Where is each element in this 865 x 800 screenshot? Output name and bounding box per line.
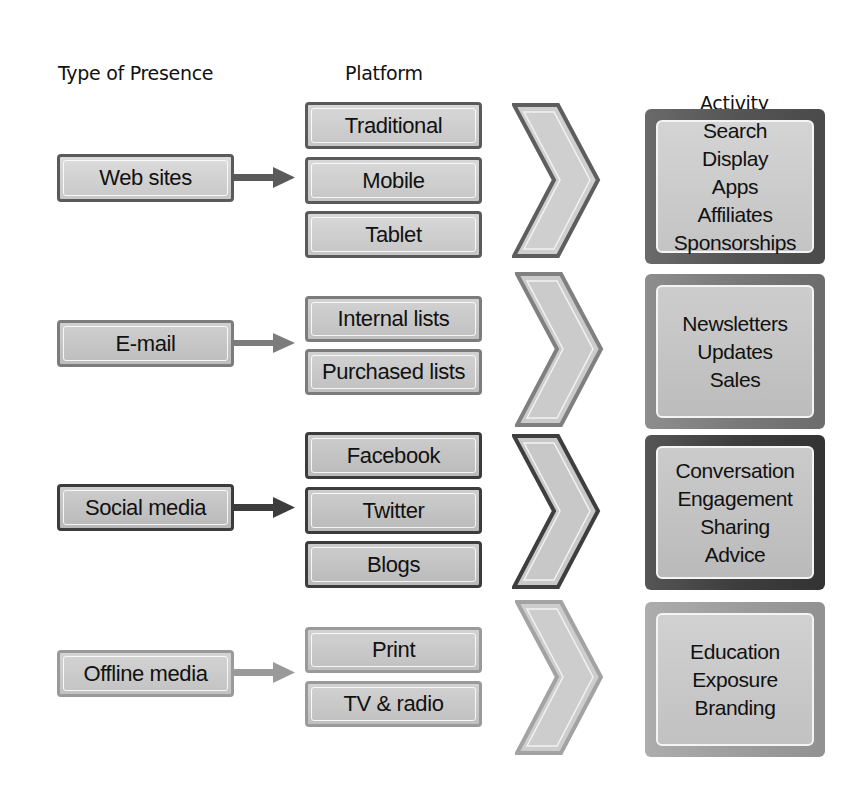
platform-mobile: Mobile [305,157,482,204]
presence-label: Social media [85,495,206,521]
right-arrow-icon [233,497,295,519]
platform-tablet: Tablet [305,211,482,258]
chevron-right-icon [515,272,605,427]
activity-item: Apps [712,173,758,201]
header-platform: Platform [345,62,423,84]
activity-item: Affiliates [698,201,773,229]
activity-web-sites: Search Display Apps Affiliates Sponsorsh… [645,109,825,264]
platform-facebook: Facebook [305,432,482,479]
platform-label: Tablet [365,222,421,248]
platform-tv-radio: TV & radio [305,681,482,727]
presence-label: Offline media [83,661,207,687]
platform-purchased-lists: Purchased lists [305,349,482,395]
presence-web-sites: Web sites [57,154,234,202]
platform-internal-lists: Internal lists [305,296,482,342]
chevron-right-icon [512,103,602,258]
activity-item: Sharing [700,513,770,541]
platform-label: Mobile [362,168,424,194]
platform-label: Print [372,637,415,663]
platform-label: Twitter [363,498,425,524]
platform-blogs: Blogs [305,541,482,588]
activity-item: Conversation [676,457,795,485]
presence-label: E-mail [116,331,176,357]
activity-item: Updates [697,338,772,366]
chevron-right-icon [515,600,605,755]
platform-traditional: Traditional [305,102,482,149]
activity-item: Display [702,145,768,173]
platform-label: Traditional [345,113,443,139]
activity-item: Newsletters [682,310,787,338]
activity-email: Newsletters Updates Sales [645,274,825,429]
platform-print: Print [305,627,482,673]
activity-social-media: Conversation Engagement Sharing Advice [645,435,825,590]
platform-twitter: Twitter [305,487,482,534]
header-type-of-presence: Type of Presence [58,62,213,84]
activity-item: Education [690,638,780,666]
platform-label: Internal lists [338,306,450,332]
activity-item: Advice [705,541,766,569]
activity-item: Sales [710,366,761,394]
activity-item: Sponsorships [674,229,796,257]
platform-label: Blogs [367,552,420,578]
right-arrow-icon [233,662,295,684]
platform-label: Purchased lists [322,359,465,385]
activity-offline-media: Education Exposure Branding [645,602,825,757]
platform-label: TV & radio [344,691,444,717]
right-arrow-icon [233,167,295,189]
activity-item: Search [703,117,767,145]
activity-item: Engagement [677,485,792,513]
activity-item: Exposure [692,666,778,694]
platform-label: Facebook [347,443,440,469]
right-arrow-icon [233,333,295,355]
presence-offline-media: Offline media [57,650,234,697]
presence-label: Web sites [99,165,192,191]
presence-social-media: Social media [57,484,234,531]
activity-item: Branding [695,694,776,722]
chevron-right-icon [512,434,602,589]
presence-email: E-mail [57,320,234,367]
